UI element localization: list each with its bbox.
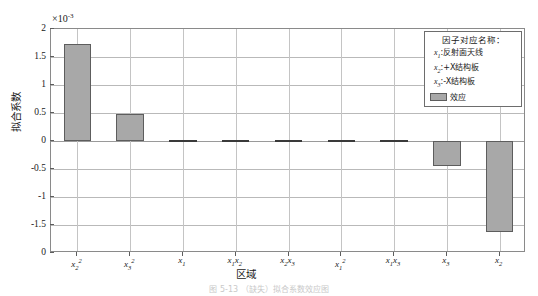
x-axis-tick-label: x22	[48, 255, 104, 273]
gridline-horizontal	[51, 197, 524, 198]
x-axis-tick-label: x2x3	[260, 255, 316, 269]
y-axis-tick-mark	[50, 112, 54, 113]
bar	[328, 140, 355, 142]
x-axis-tick-label: x1x2	[207, 255, 263, 269]
y-axis-tick-label: 1.5	[6, 51, 46, 61]
legend-series-entry: 效应	[430, 92, 517, 103]
multiplier-prefix: ×10	[52, 13, 68, 24]
bar	[116, 114, 143, 141]
y-axis-tick-label: -1	[6, 191, 46, 201]
figure-container: ×10-3 拟合系数 区域 21.510.50-0.5-1-1.50x22x32…	[0, 0, 538, 296]
bar	[380, 140, 407, 142]
bar	[275, 140, 302, 142]
y-axis-tick-label: 0.5	[6, 107, 46, 117]
legend-entries: x1:反射面天线x2:+X结构板x3:-X结构板	[430, 47, 517, 91]
y-axis-tick-label: 0	[6, 135, 46, 145]
legend-entry: x1:反射面天线	[430, 47, 517, 62]
x-axis-tick-label: x3	[418, 255, 474, 269]
x-axis-tick-label: x2	[471, 255, 527, 269]
legend-title: 因子对应名称：	[430, 35, 517, 46]
y-axis-tick-label: 2	[6, 23, 46, 33]
legend-entry: x2:+X结构板	[430, 62, 517, 77]
gridline-horizontal	[51, 225, 524, 226]
x-axis-tick-label: x1x3	[365, 255, 421, 269]
y-axis-tick-mark	[50, 252, 54, 253]
bar	[433, 141, 460, 166]
y-axis-tick-label: 0	[6, 247, 46, 257]
y-axis-tick-mark	[50, 224, 54, 225]
x-axis-tick-label: x1	[154, 255, 210, 269]
legend-swatch-effect	[430, 93, 447, 101]
y-axis-tick-mark	[50, 84, 54, 85]
legend-entry: x3:-X结构板	[430, 76, 517, 91]
x-axis-tick-label: x12	[312, 255, 368, 273]
legend: 因子对应名称： x1:反射面天线x2:+X结构板x3:-X结构板 效应	[424, 31, 522, 107]
y-axis-tick-label: -1.5	[6, 219, 46, 229]
bar	[486, 141, 513, 232]
y-axis-tick-mark	[50, 168, 54, 169]
legend-entry-name: :-X结构板	[441, 77, 476, 86]
bar	[64, 44, 91, 141]
gridline-horizontal	[51, 169, 524, 170]
y-axis-tick-mark	[50, 140, 54, 141]
legend-entry-name: :反射面天线	[441, 48, 484, 57]
multiplier-exponent: -3	[68, 12, 74, 20]
y-axis-tick-mark	[50, 56, 54, 57]
bar	[222, 140, 249, 142]
figure-caption: 图 5-13 （缺失）拟合系数效应图	[0, 283, 538, 294]
legend-entry-name: :+X结构板	[441, 63, 480, 72]
x-axis-tick-label: x32	[101, 255, 157, 273]
y-axis-multiplier: ×10-3	[52, 12, 73, 24]
legend-series-label: 效应	[450, 92, 466, 103]
y-axis-tick-mark	[50, 196, 54, 197]
y-axis-tick-label: -0.5	[6, 163, 46, 173]
bar	[169, 140, 196, 142]
y-axis-tick-mark	[50, 28, 54, 29]
y-axis-tick-label: 1	[6, 79, 46, 89]
